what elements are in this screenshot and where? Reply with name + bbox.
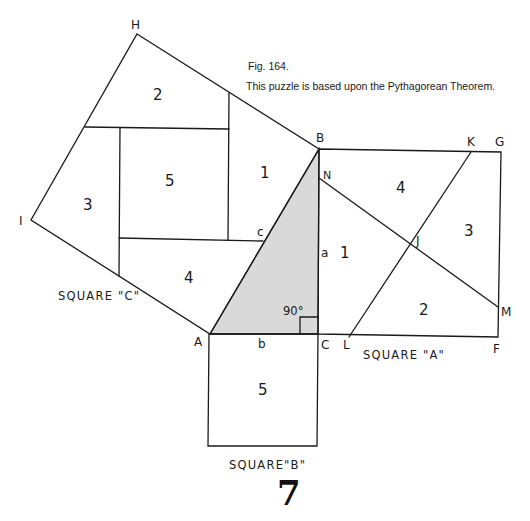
square-c-cut-left <box>119 128 120 276</box>
vertex-label-b: B <box>316 131 324 145</box>
vertex-label-a: A <box>194 335 203 349</box>
pythagorean-puzzle-diagram: H B I A C K G N J M L F a b c 90° 2 5 1 … <box>0 0 530 521</box>
piece-a-1: 1 <box>340 244 350 262</box>
vertex-label-i: I <box>19 214 23 228</box>
vertex-label-k: K <box>467 135 476 149</box>
square-a-cut-nm <box>319 178 498 307</box>
vertex-label-f: F <box>493 342 500 356</box>
vertex-label-g: G <box>495 135 504 149</box>
piece-c-5: 5 <box>165 172 175 190</box>
vertex-label-c: C <box>321 338 329 352</box>
vertex-label-l: L <box>343 338 350 352</box>
side-label-b: b <box>258 337 266 351</box>
piece-c-3: 3 <box>83 196 93 214</box>
square-c-cut-right <box>228 93 229 240</box>
side-label-a: a <box>321 246 328 260</box>
figure-description: This puzzle is based upon the Pythagorea… <box>246 80 495 92</box>
square-a-cut-kl <box>349 152 471 337</box>
piece-b-5: 5 <box>258 381 268 399</box>
side-label-c: c <box>257 225 264 239</box>
square-a-label: SQUARE "A" <box>363 348 445 362</box>
vertex-label-n: N <box>323 169 331 182</box>
vertex-label-m: M <box>501 305 511 319</box>
vertex-label-h: H <box>131 18 140 32</box>
vertex-label-j: J <box>415 234 420 248</box>
piece-a-3: 3 <box>464 222 474 240</box>
piece-c-2: 2 <box>153 86 163 104</box>
page-number: 7 <box>277 473 301 513</box>
piece-c-1: 1 <box>260 164 270 182</box>
square-c-cut-bottom <box>119 238 263 241</box>
square-b-label: SQUARE"B" <box>229 458 306 472</box>
piece-a-4: 4 <box>396 179 406 197</box>
square-c-label: SQUARE "C" <box>58 289 140 303</box>
piece-a-2: 2 <box>419 301 429 319</box>
right-angle-label: 90° <box>283 304 303 318</box>
square-c-cut-top <box>85 127 229 129</box>
piece-c-4: 4 <box>184 269 194 287</box>
figure-number: Fig. 164. <box>248 60 289 72</box>
